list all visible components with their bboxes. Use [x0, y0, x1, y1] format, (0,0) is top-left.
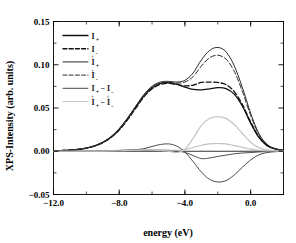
- y-tick-label: 0.05: [34, 103, 50, 113]
- xps-intensity-chart: −12.0−8.0−4.00.0 −0.050.000.050.100.15 e…: [0, 0, 296, 243]
- legend-superscript-arrow-icon: ↑: [91, 94, 94, 100]
- legend-subscript: +: [96, 103, 100, 109]
- y-tick-label: −0.05: [29, 190, 50, 200]
- y-tick-label: 0.10: [34, 60, 50, 70]
- x-tick-label: 0.0: [245, 198, 257, 208]
- legend-superscript-arrow-icon: ↑: [107, 94, 110, 100]
- y-tick-label: 0.15: [34, 17, 50, 27]
- figure-container: −12.0−8.0−4.00.0 −0.050.000.050.100.15 e…: [0, 0, 296, 243]
- legend-subscript: -: [111, 89, 113, 95]
- legend-subscript: +: [96, 63, 100, 69]
- legend-symbol: I: [92, 32, 95, 41]
- x-tick-label: −4.0: [177, 198, 194, 208]
- legend-subscript: -: [96, 76, 98, 82]
- legend-subscript: +: [96, 89, 100, 95]
- legend-symbol: I: [92, 45, 95, 54]
- legend-superscript-arrow-icon: ↑: [91, 68, 94, 74]
- y-tick-label: 0.00: [34, 146, 50, 156]
- y-axis-label: XPS-Intensity (arb. units): [4, 61, 16, 171]
- legend-subscript: +: [96, 37, 100, 43]
- legend-minus-sign: −: [101, 84, 106, 93]
- legend-symbol: I: [107, 84, 110, 93]
- legend-symbol: I: [92, 84, 95, 93]
- legend-subscript: -: [111, 103, 113, 109]
- legend-superscript-arrow-icon: ↑: [91, 54, 94, 60]
- legend-minus-sign: −: [101, 98, 106, 107]
- x-axis-label: energy (eV): [143, 227, 193, 239]
- x-tick-label: −8.0: [111, 198, 128, 208]
- legend-subscript: -: [96, 50, 98, 56]
